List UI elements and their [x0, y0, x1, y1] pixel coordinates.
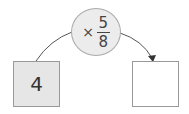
- numerator: 5: [99, 15, 109, 31]
- output-box[interactable]: [132, 61, 179, 107]
- fraction: 5 8: [97, 15, 110, 50]
- multiply-icon: ×: [82, 24, 94, 40]
- input-value: 4: [30, 72, 43, 96]
- input-box: 4: [13, 61, 60, 107]
- denominator: 8: [99, 34, 109, 50]
- operator-bubble: × 5 8: [71, 8, 121, 56]
